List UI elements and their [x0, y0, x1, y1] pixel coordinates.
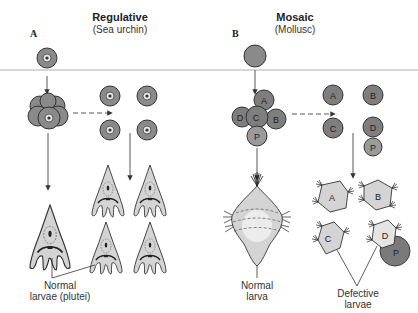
caption-line: Normal	[232, 280, 282, 291]
caption-line: larvae	[328, 299, 388, 310]
pluteus-small	[134, 165, 166, 217]
svg-text:C: C	[330, 124, 337, 134]
svg-text:C: C	[253, 113, 260, 123]
svg-text:B: B	[273, 115, 279, 125]
svg-text:P: P	[393, 248, 399, 258]
svg-text:D: D	[237, 113, 244, 123]
mollusc-embryo: A D B C P	[232, 90, 286, 146]
defective-larva-a: A	[312, 180, 354, 212]
svg-text:P: P	[254, 132, 260, 142]
svg-text:D: D	[382, 231, 389, 241]
caption-line: Defective	[328, 288, 388, 299]
pluteus-small	[90, 222, 122, 274]
mollusc-egg	[244, 45, 266, 67]
isolated-cell-d-with-polar-lobe: D P	[363, 117, 383, 156]
isolated-blastomere	[100, 86, 120, 106]
isolated-cell-b: B	[363, 85, 383, 105]
svg-text:B: B	[375, 192, 381, 202]
svg-text:B: B	[370, 91, 376, 101]
normal-pluteus-large	[30, 205, 70, 270]
svg-text:A: A	[330, 91, 336, 101]
isolated-blastomere	[137, 86, 157, 106]
caption-normal-larva: Normal larva	[232, 280, 282, 302]
isolated-cell-c: C	[323, 118, 343, 138]
pluteus-small	[92, 165, 124, 217]
caption-line: larvae (plutei)	[20, 291, 100, 302]
defective-larva-b: B	[358, 180, 398, 210]
sea-urchin-egg	[37, 48, 57, 68]
defective-larva-d-with-polar-lobe: D P	[366, 220, 410, 266]
sea-urchin-8-cell-embryo	[28, 93, 68, 129]
svg-text:C: C	[325, 234, 332, 244]
pluteus-small	[134, 222, 166, 274]
caption-line: larva	[232, 291, 282, 302]
isolated-cell-a: A	[323, 85, 343, 105]
svg-text:A: A	[329, 193, 335, 203]
normal-mollusc-larva	[223, 172, 291, 278]
caption-normal-larvae-plutei: Normal larvae (plutei)	[20, 280, 100, 302]
svg-text:A: A	[261, 96, 267, 106]
caption-leader-line	[52, 258, 95, 278]
embryo-diagram: A D B C P A B C D P	[0, 0, 418, 313]
defective-caption-leader-line	[337, 246, 377, 286]
caption-line: Normal	[20, 280, 100, 291]
isolated-blastomere	[100, 120, 120, 140]
svg-text:P: P	[370, 143, 376, 153]
isolated-blastomere	[137, 120, 157, 140]
svg-text:D: D	[370, 123, 377, 133]
caption-defective-larvae: Defective larvae	[328, 288, 388, 310]
defective-larva-c: C	[312, 221, 350, 254]
